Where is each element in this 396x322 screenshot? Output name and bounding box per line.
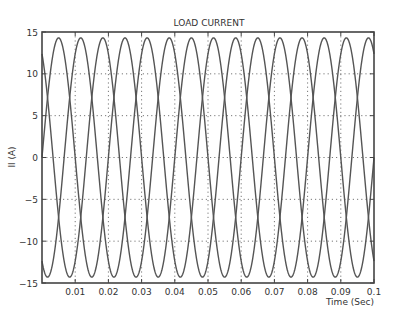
x-tick-label: 0.08	[298, 287, 318, 297]
y-tick-label: −15	[19, 279, 38, 289]
x-tick-label: 0.01	[65, 287, 85, 297]
y-tick-label: 5	[32, 111, 38, 121]
x-axis-label: Time (Sec)	[325, 297, 374, 307]
x-tick-label: 0.04	[165, 287, 185, 297]
x-tick-label: 0.02	[98, 287, 118, 297]
y-tick-label: 0	[32, 153, 38, 163]
y-tick-label: −5	[25, 195, 38, 205]
load-current-chart: LOAD CURRENT 0.010.020.030.040.050.060.0…	[0, 0, 396, 322]
x-tick-label: 0.06	[231, 287, 251, 297]
x-axis-ticks: 0.010.020.030.040.050.060.070.080.090.1	[65, 32, 381, 297]
y-tick-label: 15	[27, 28, 38, 38]
x-tick-label: 0.09	[331, 287, 351, 297]
x-tick-label: 0.07	[264, 287, 284, 297]
x-tick-label: 0.03	[132, 287, 152, 297]
y-tick-label: 10	[27, 69, 39, 79]
x-tick-label: 0.1	[367, 287, 381, 297]
x-tick-label: 0.05	[198, 287, 218, 297]
chart-title: LOAD CURRENT	[174, 18, 245, 28]
y-axis-label: Il (A)	[7, 146, 17, 167]
y-tick-label: −10	[19, 237, 38, 247]
